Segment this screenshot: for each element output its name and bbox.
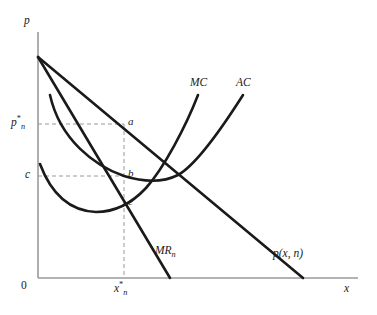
price-star-subscript: n <box>21 122 25 131</box>
marginal-revenue-base: MR <box>155 244 172 256</box>
marginal-cost-label: MC <box>190 77 207 89</box>
marginal-revenue-subscript: n <box>172 250 176 259</box>
x-tick-quantity-star: x*n <box>114 283 127 295</box>
y-tick-price-star: p*n <box>11 117 25 129</box>
economics-diagram: p x 0 p*n c x*n MC AC MRn p(x, n) a b e <box>0 0 377 315</box>
demand-label: p(x, n) <box>273 248 303 260</box>
y-axis-label: p <box>24 15 30 27</box>
point-label-b: b <box>128 168 134 179</box>
quantity-star-subscript: n <box>123 288 127 297</box>
average-cost-label: AC <box>236 77 251 89</box>
origin-label: 0 <box>21 280 27 292</box>
point-label-e: e <box>128 196 133 207</box>
y-tick-cost: c <box>25 169 30 181</box>
plot-canvas <box>0 0 377 315</box>
x-axis-label: x <box>344 283 349 295</box>
average-cost-curve <box>50 95 243 181</box>
point-label-a: a <box>128 116 134 127</box>
marginal-revenue-label: MRn <box>155 245 176 257</box>
